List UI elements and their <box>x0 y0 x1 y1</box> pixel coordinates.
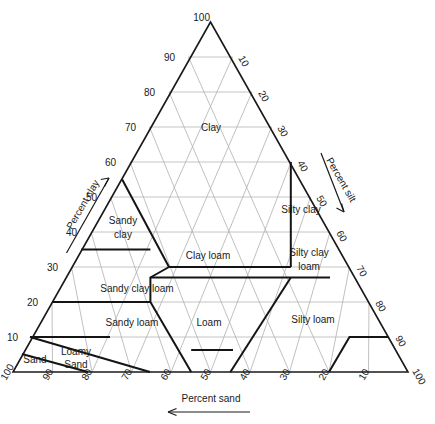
region-label-silty-loam: Silty loam <box>291 314 334 325</box>
percent-silt-arrow-head <box>337 204 345 213</box>
apex-tick-100: 100 <box>193 12 210 23</box>
axis-label-percent-silt: Percent silt <box>324 156 358 205</box>
left-tick-90: 90 <box>164 52 176 63</box>
region-label-loam: Loam <box>196 317 221 328</box>
region-label-clay-loam: Clay loam <box>186 250 230 261</box>
right-tick-30: 30 <box>275 124 290 140</box>
region-label-sandy-clay-line2: clay <box>114 229 132 240</box>
region-label-silty-clay-loam-line1: Silty clay <box>289 247 328 258</box>
right-tick-70: 70 <box>354 264 369 280</box>
bottom-tick-70: 70 <box>119 366 134 382</box>
axis-label-percent-clay: Percent clay <box>64 178 101 231</box>
right-tick-10: 10 <box>236 54 251 70</box>
region-label-sandy-clay-loam: Sandy clay loam <box>100 283 173 294</box>
left-tick-10: 10 <box>7 332 19 343</box>
region-label-clay: Clay <box>201 122 221 133</box>
region-label-loamy-sand-line1: Loamy <box>61 346 91 357</box>
right-tick-20: 20 <box>256 89 271 105</box>
boundary-loam-right <box>230 278 290 373</box>
left-tick-30: 30 <box>47 262 59 273</box>
region-label-silty-clay-loam-line2: loam <box>298 261 320 272</box>
right-tick-60: 60 <box>334 229 349 245</box>
left-tick-80: 80 <box>144 87 156 98</box>
boundary-silt-region <box>329 337 389 372</box>
percent-clay-arrow-head <box>101 178 109 187</box>
region-label-silty-clay: Silty clay <box>281 204 320 215</box>
right-tick-100: 100 <box>410 367 428 387</box>
region-label-loamy-sand-line2: Sand <box>64 359 87 370</box>
bottom-tick-10: 10 <box>356 366 371 382</box>
left-tick-20: 20 <box>27 297 39 308</box>
region-label-sand: Sand <box>23 354 46 365</box>
right-tick-80: 80 <box>373 299 388 315</box>
right-tick-90: 90 <box>393 334 408 350</box>
right-tick-40: 40 <box>295 159 310 175</box>
axis-label-percent-sand: Percent sand <box>182 393 241 404</box>
ternary-diagram-svg: 10 20 30 40 50 60 70 80 90 100 10 20 30 … <box>0 0 435 424</box>
region-label-sandy-loam: Sandy loam <box>106 317 159 328</box>
bottom-tick-90: 90 <box>40 366 55 382</box>
bottom-tick-40: 40 <box>237 366 252 382</box>
bottom-tick-60: 60 <box>158 366 173 382</box>
bottom-tick-50: 50 <box>198 366 213 382</box>
left-tick-70: 70 <box>125 122 137 133</box>
region-label-sandy-clay-line1: Sandy <box>109 215 137 226</box>
soil-texture-triangle-figure: 10 20 30 40 50 60 70 80 90 100 10 20 30 … <box>0 0 435 424</box>
left-tick-60: 60 <box>105 157 117 168</box>
